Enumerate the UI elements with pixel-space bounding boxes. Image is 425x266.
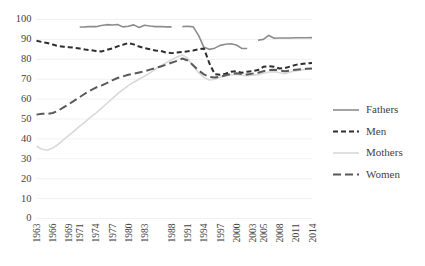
x-axis-tick-label: 2003	[248, 223, 258, 242]
y-axis-tick-label: 60	[21, 93, 32, 104]
legend-label-women: Women	[366, 168, 400, 180]
x-axis-tick-label: 2011	[291, 223, 301, 242]
x-axis-tick-label: 1991	[183, 223, 193, 242]
x-axis-tick-label: 2000	[232, 223, 242, 242]
y-axis-tick-label: 50	[21, 113, 32, 124]
x-axis-tick-label: 2008	[275, 223, 285, 242]
y-axis-tick-label: 30	[21, 153, 32, 164]
x-axis-tick-label: 1988	[167, 223, 177, 242]
line-chart: 0102030405060708090100 19631966196919711…	[0, 0, 425, 266]
legend-label-fathers: Fathers	[366, 103, 398, 115]
x-axis-tick-label: 1983	[140, 223, 150, 242]
x-axis-tick-label: 1974	[91, 223, 101, 242]
x-axis-tick-label: 1980	[124, 223, 134, 242]
y-axis-tick-labels: 0102030405060708090100	[16, 13, 32, 223]
chart-container: 0102030405060708090100 19631966196919711…	[0, 0, 425, 266]
x-axis-tick-label: 1997	[216, 223, 226, 242]
legend-label-mothers: Mothers	[366, 146, 403, 158]
series-line-fathers	[80, 24, 312, 49]
y-axis-tick-label: 100	[16, 13, 32, 24]
series-lines	[37, 24, 313, 150]
legend-label-men: Men	[366, 125, 387, 137]
x-axis-tick-label: 1966	[48, 223, 58, 242]
x-axis-tick-label: 2014	[308, 223, 318, 242]
x-axis-tick-label: 1969	[64, 223, 74, 242]
x-axis-tick-labels: 1963196619691971197419771980198319881991…	[32, 223, 318, 242]
y-axis-tick-label: 0	[26, 212, 31, 223]
x-axis-tick-label: 2005	[259, 223, 269, 242]
x-axis-tick-label: 1994	[199, 223, 209, 242]
y-axis-tick-label: 20	[21, 173, 32, 184]
x-axis-tick-label: 1971	[75, 223, 85, 242]
y-axis-tick-label: 80	[21, 53, 32, 64]
y-axis-tick-label: 10	[21, 193, 32, 204]
grid-lines	[37, 20, 313, 219]
x-axis-tick-label: 1977	[108, 223, 118, 242]
y-axis-tick-label: 70	[21, 73, 32, 84]
y-axis-tick-label: 90	[21, 33, 32, 44]
y-axis-tick-label: 40	[21, 133, 32, 144]
chart-legend: FathersMenMothersWomen	[333, 103, 403, 180]
x-axis-tick-label: 1963	[32, 223, 42, 242]
